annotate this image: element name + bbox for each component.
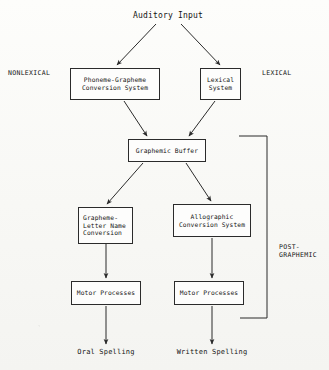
post-graphemic-route-label: POST- GRAPHEMIC: [279, 243, 317, 260]
node-motor-processes-right: Motor Processes: [174, 281, 244, 305]
node-phoneme-grapheme-conversion-system: Phoneme-Grapheme Conversion System: [70, 68, 160, 100]
node-graphemic-buffer: Graphemic Buffer: [128, 139, 206, 162]
nonlexical-route-label: NONLEXICAL: [8, 69, 50, 77]
node-grapheme-letter-name-conversion: Grapheme- Letter Name Conversion: [78, 207, 133, 244]
edge-lexical-to-buffer: [189, 101, 215, 136]
spelling-model-diagram: Auditory Input NONLEXICAL LEXICAL POST- …: [0, 0, 329, 370]
node-allographic-conversion-system: Allographic Conversion System: [173, 204, 251, 237]
node-motor-processes-left: Motor Processes: [71, 281, 141, 305]
edge-auditory-to-lexical: [181, 24, 220, 65]
node-allographic-label: Allographic Conversion System: [176, 213, 248, 228]
oral-spelling-output-label: Oral Spelling: [61, 348, 151, 357]
edge-auditory-to-phoneme-grapheme: [117, 24, 156, 65]
node-phoneme-grapheme-label: Phoneme-Grapheme Conversion System: [79, 76, 151, 91]
node-motor-processes-left-label: Motor Processes: [74, 289, 138, 297]
edge-buffer-to-allographic: [186, 163, 211, 201]
node-motor-processes-right-label: Motor Processes: [177, 289, 241, 297]
node-lexical-system-label: Lexical System: [204, 76, 237, 91]
edge-phoneme-grapheme-to-buffer: [124, 101, 147, 136]
lexical-route-label: LEXICAL: [262, 69, 292, 77]
connector-layer: [0, 0, 329, 370]
node-lexical-system: Lexical System: [200, 68, 241, 100]
node-grapheme-letter-name-label: Grapheme- Letter Name Conversion: [79, 214, 129, 237]
node-graphemic-buffer-label: Graphemic Buffer: [133, 147, 201, 155]
auditory-input-label: Auditory Input: [118, 11, 218, 21]
written-spelling-output-label: Written Spelling: [167, 348, 257, 357]
edge-buffer-to-grapheme-letter-name: [107, 163, 143, 204]
